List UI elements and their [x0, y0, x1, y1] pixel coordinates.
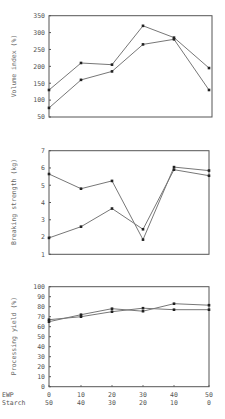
- y-tick-label: 5: [41, 182, 45, 190]
- data-point-marker: [208, 89, 211, 92]
- y-tick-label: 90: [37, 293, 45, 301]
- volume-index-chart-frame: [49, 16, 212, 117]
- y-tick-label: 4: [41, 199, 45, 207]
- data-point-marker: [142, 228, 145, 231]
- data-point-marker: [111, 310, 114, 313]
- y-tick-label: 200: [33, 63, 45, 71]
- x-tick-label: 20: [108, 391, 116, 399]
- y-tick-label: 7: [41, 147, 45, 155]
- y-tick-label: 150: [33, 80, 45, 88]
- volume-index-chart-series-a: [49, 26, 209, 90]
- data-point-marker: [111, 207, 114, 210]
- data-point-marker: [173, 168, 176, 171]
- y-tick-label: 40: [37, 343, 45, 351]
- y-tick-label: 80: [37, 303, 45, 311]
- x-tick-label: 50: [205, 391, 213, 399]
- y-tick-label: 6: [41, 164, 45, 172]
- y-tick-label: 50: [37, 113, 45, 121]
- x-tick-label: 40: [170, 391, 178, 399]
- data-point-marker: [48, 173, 51, 176]
- data-point-marker: [142, 238, 145, 241]
- data-point-marker: [142, 43, 145, 46]
- data-point-marker: [111, 63, 114, 66]
- y-tick-label: 0: [41, 383, 45, 391]
- data-point-marker: [80, 315, 83, 318]
- data-point-marker: [48, 237, 51, 240]
- breaking-strength-chart-ylabel: Breaking strength (kg): [10, 159, 18, 245]
- data-point-marker: [208, 67, 211, 70]
- x-tick-label: 0: [207, 399, 211, 407]
- data-point-marker: [80, 225, 83, 228]
- data-point-marker: [208, 174, 211, 177]
- processing-yield-chart-frame: [49, 287, 209, 387]
- x-tick-label: 40: [77, 399, 85, 407]
- volume-index-chart-ylabel: Volume index (%): [10, 35, 18, 98]
- y-tick-label: 2: [41, 233, 45, 241]
- data-point-marker: [208, 308, 211, 311]
- data-point-marker: [48, 89, 51, 92]
- breaking-strength-chart-series-b: [49, 170, 209, 238]
- x-tick-label: 30: [108, 399, 116, 407]
- data-point-marker: [173, 166, 176, 169]
- y-tick-label: 60: [37, 323, 45, 331]
- x-row-label-starch: Starch: [2, 399, 26, 407]
- processing-yield-chart-series-b: [49, 308, 209, 320]
- data-point-marker: [173, 302, 176, 305]
- data-point-marker: [111, 70, 114, 73]
- data-point-marker: [80, 187, 83, 190]
- x-tick-label: 20: [139, 399, 147, 407]
- y-tick-label: 350: [33, 12, 45, 20]
- x-row-label-ewp: EWP: [2, 391, 14, 399]
- data-point-marker: [80, 62, 83, 65]
- data-point-marker: [173, 38, 176, 41]
- data-point-marker: [142, 310, 145, 313]
- x-tick-label: 50: [45, 399, 53, 407]
- x-tick-label: 10: [77, 391, 85, 399]
- y-tick-label: 3: [41, 216, 45, 224]
- data-point-marker: [173, 308, 176, 311]
- volume-index-chart-series-b: [49, 39, 209, 108]
- line-charts: 50100150200250300350Volume index (%)1234…: [0, 0, 225, 419]
- y-tick-label: 50: [37, 333, 45, 341]
- y-tick-label: 300: [33, 29, 45, 37]
- y-tick-label: 100: [33, 96, 45, 104]
- processing-yield-chart-ylabel: Processing yield (%): [10, 297, 18, 375]
- data-point-marker: [48, 318, 51, 321]
- breaking-strength-chart-frame: [49, 151, 209, 255]
- data-point-marker: [80, 79, 83, 82]
- y-tick-label: 10: [37, 373, 45, 381]
- data-point-marker: [208, 304, 211, 307]
- y-tick-label: 20: [37, 363, 45, 371]
- y-tick-label: 30: [37, 353, 45, 361]
- data-point-marker: [111, 307, 114, 310]
- y-tick-label: 100: [33, 283, 45, 291]
- y-tick-label: 70: [37, 313, 45, 321]
- breaking-strength-chart-series-a: [49, 167, 209, 240]
- figure: 50100150200250300350Volume index (%)1234…: [0, 0, 225, 419]
- data-point-marker: [111, 180, 114, 183]
- x-tick-label: 30: [139, 391, 147, 399]
- data-point-marker: [142, 25, 145, 28]
- x-tick-label: 0: [47, 391, 51, 399]
- processing-yield-chart-series-a: [49, 304, 209, 322]
- data-point-marker: [142, 307, 145, 310]
- y-tick-label: 250: [33, 46, 45, 54]
- data-point-marker: [208, 169, 211, 172]
- data-point-marker: [48, 107, 51, 110]
- x-tick-label: 10: [170, 399, 178, 407]
- y-tick-label: 1: [41, 251, 45, 259]
